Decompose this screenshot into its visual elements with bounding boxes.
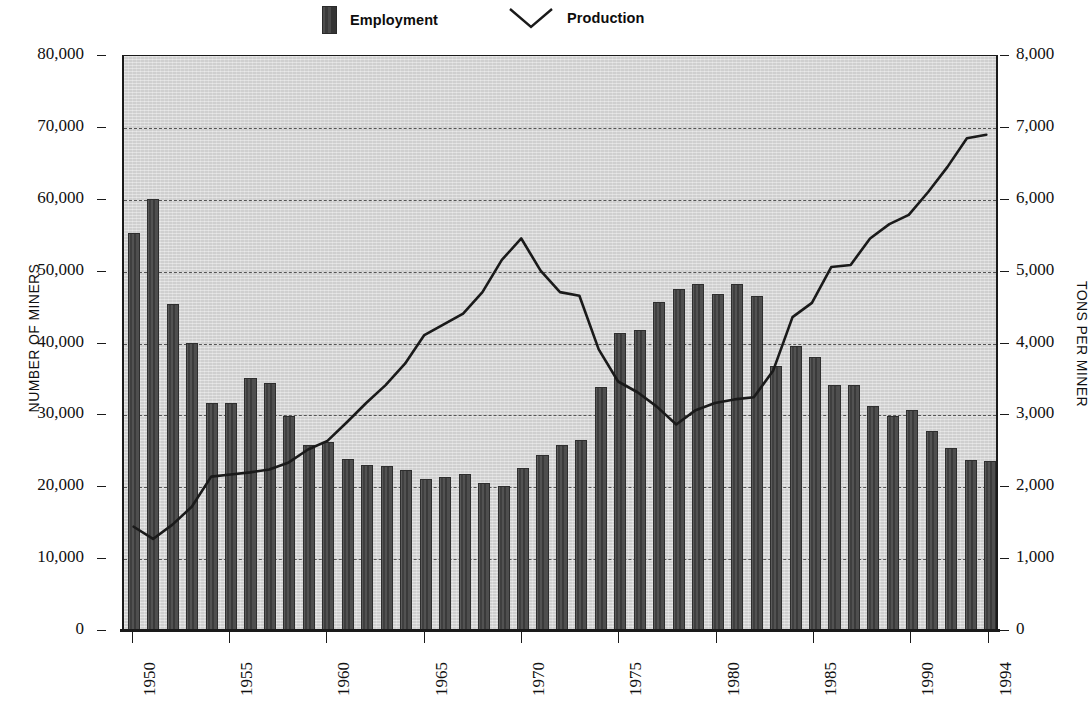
x-axis-tick-label: 1975 <box>626 662 646 696</box>
y-axis-left-tick-mark <box>97 199 106 200</box>
x-axis-tick-mark <box>910 632 911 643</box>
y-axis-left-tick-mark <box>97 127 106 128</box>
y-axis-right-tick-label: 3,000 <box>1016 403 1054 423</box>
y-axis-left-tick-label: 70,000 <box>37 116 84 136</box>
x-axis-tick-mark <box>229 632 230 643</box>
y-axis-right: 8,0007,0006,0005,0004,0003,0002,0001,000… <box>1000 0 1078 702</box>
y-axis-left: 80,00070,00060,00050,00040,00030,00020,0… <box>0 0 106 702</box>
y-axis-right-tick-mark <box>1000 127 1009 128</box>
chart-legend: Employment Production <box>0 2 1078 36</box>
x-axis-tick-label: 1965 <box>432 662 452 696</box>
x-axis-tick-label: 1950 <box>140 662 160 696</box>
production-line-series <box>124 56 996 628</box>
y-axis-left-tick-label: 20,000 <box>37 475 84 495</box>
x-axis-tick-mark <box>521 632 522 643</box>
y-axis-left-tick-label: 0 <box>76 619 85 639</box>
y-axis-left-tick-mark <box>97 55 106 56</box>
legend-item-employment: Employment <box>322 6 438 34</box>
y-axis-left-tick-label: 30,000 <box>37 403 84 423</box>
y-axis-left-tick-mark <box>97 343 106 344</box>
y-axis-left-tick-label: 40,000 <box>37 332 84 352</box>
y-axis-right-tick-mark <box>1000 558 1009 559</box>
y-axis-left-tick-label: 10,000 <box>37 547 84 567</box>
x-axis-tick-label: 1960 <box>334 662 354 696</box>
legend-item-production: Production <box>508 6 645 30</box>
y-axis-right-tick-mark <box>1000 55 1009 56</box>
x-axis-tick-mark <box>813 632 814 643</box>
legend-label-production: Production <box>567 10 645 26</box>
y-axis-right-tick-mark <box>1000 199 1009 200</box>
y-axis-right-tick-label: 8,000 <box>1016 44 1054 64</box>
y-axis-left-tick-label: 80,000 <box>37 44 84 64</box>
x-axis-tick-mark <box>618 632 619 643</box>
x-axis-tick-label: 1980 <box>724 662 744 696</box>
x-axis-tick-mark <box>326 632 327 643</box>
x-axis-tick-label: 1994 <box>996 662 1016 696</box>
y-axis-right-tick-label: 2,000 <box>1016 475 1054 495</box>
x-axis-tick-label: 1970 <box>529 662 549 696</box>
x-axis-line <box>120 629 1000 632</box>
y-axis-left-tick-label: 60,000 <box>37 188 84 208</box>
y-axis-left-tick-mark <box>97 558 106 559</box>
legend-label-employment: Employment <box>350 12 438 28</box>
x-axis-tick-label: 1990 <box>918 662 938 696</box>
y-axis-right-tick-mark <box>1000 271 1009 272</box>
y-axis-left-tick-mark <box>97 486 106 487</box>
y-axis-left-tick-mark <box>97 630 106 631</box>
x-axis-tick-mark <box>424 632 425 643</box>
y-axis-left-tick-mark <box>97 414 106 415</box>
employment-bar-swatch-icon <box>322 6 337 34</box>
y-axis-right-tick-label: 1,000 <box>1016 547 1054 567</box>
y-axis-right-tick-mark <box>1000 343 1009 344</box>
x-axis-tick-label: 1985 <box>821 662 841 696</box>
y-axis-right-tick-mark <box>1000 486 1009 487</box>
x-axis-tick-mark <box>132 632 133 643</box>
plot-area <box>122 55 998 630</box>
y-axis-right-tick-mark <box>1000 630 1009 631</box>
y-axis-right-tick-label: 6,000 <box>1016 188 1054 208</box>
y-axis-right-tick-label: 0 <box>1016 619 1025 639</box>
x-axis-tick-mark <box>716 632 717 643</box>
x-axis-tick-mark <box>988 632 989 643</box>
y-axis-right-tick-label: 5,000 <box>1016 260 1054 280</box>
production-vee-line-icon <box>508 6 554 30</box>
x-axis-tick-label: 1955 <box>237 662 257 696</box>
y-axis-right-tick-label: 4,000 <box>1016 332 1054 352</box>
y-axis-left-tick-mark <box>97 271 106 272</box>
y-axis-right-tick-mark <box>1000 414 1009 415</box>
y-axis-left-tick-label: 50,000 <box>37 260 84 280</box>
y-axis-right-tick-label: 7,000 <box>1016 116 1054 136</box>
